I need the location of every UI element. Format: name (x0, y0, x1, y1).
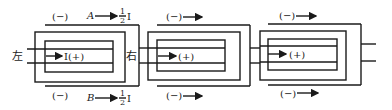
half-num-b: 1 (120, 89, 125, 98)
half-sym-a: I (127, 11, 131, 22)
half-den-b: 2 (120, 98, 125, 107)
half-sym-b: I (127, 93, 131, 104)
outer-sign-top: (−) (52, 11, 68, 22)
half-num-a: 1 (120, 7, 125, 16)
branch-b-label: B (86, 92, 94, 103)
left-label: 左 (12, 50, 23, 63)
unit-1: I(+) 左 右 (−) (−) A 1 2 I B 1 2 I (12, 7, 139, 107)
half-den-a: 2 (120, 16, 125, 25)
outer-sign-bottom: (−) (166, 90, 182, 101)
outer-sign-bottom: (−) (280, 88, 296, 99)
inner-sign-label: (+) (289, 49, 305, 60)
outer-sign-top: (−) (166, 11, 182, 22)
right-label: 右 (126, 49, 137, 63)
diagram-canvas: I(+) 左 右 (−) (−) A 1 2 I B 1 2 I (+) (−)… (0, 0, 392, 110)
unit-2: (+) (−) (−) (148, 11, 250, 101)
inner-sign-label: (+) (178, 51, 194, 62)
inner-current-label: I(+) (64, 51, 84, 62)
unit-3: (+) (−) (−) (260, 10, 376, 99)
outer-sign-top: (−) (279, 10, 295, 21)
branch-a-label: A (86, 10, 94, 21)
outer-sign-bottom: (−) (52, 90, 68, 101)
